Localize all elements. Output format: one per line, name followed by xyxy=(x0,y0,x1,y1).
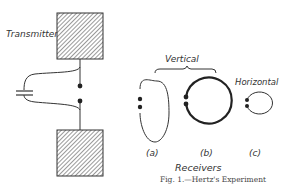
vertical-brace xyxy=(155,66,216,73)
receiver-b-loop xyxy=(186,78,232,124)
receiver-c-gap-ball-bottom xyxy=(245,104,249,108)
receiver-c-gap-ball-top xyxy=(245,98,249,102)
receiver-a-loop xyxy=(140,80,169,142)
figure-caption: Fig. 1.—Hertz's Experiment xyxy=(160,175,266,184)
vertical-label: Vertical xyxy=(165,54,199,64)
transmitter-top-plate xyxy=(57,13,103,59)
horizontal-label: Horizontal xyxy=(235,77,279,87)
capacitor-lead-top xyxy=(24,67,80,90)
transmitter-label: Transmitter xyxy=(6,29,59,39)
spark-gap-ball-top xyxy=(78,84,83,89)
receiver-a-gap-ball-bottom xyxy=(138,105,142,109)
receiver-c-loop xyxy=(247,92,273,114)
transmitter-bottom-plate xyxy=(57,130,103,176)
hertz-experiment-diagram: Transmitter Vertical Horizontal (a) (b) … xyxy=(0,0,287,187)
receiver-a-label: (a) xyxy=(146,148,159,158)
capacitor-lead-bottom xyxy=(24,95,80,110)
receiver-c-label: (c) xyxy=(249,148,261,158)
receiver-b-gap-ball-top xyxy=(184,95,189,100)
spark-gap-ball-bottom xyxy=(78,99,83,104)
receivers-label: Receivers xyxy=(175,162,222,173)
receiver-a-gap-ball-top xyxy=(138,97,142,101)
receiver-b-label: (b) xyxy=(200,148,213,158)
receiver-b-gap-ball-bottom xyxy=(184,102,189,107)
